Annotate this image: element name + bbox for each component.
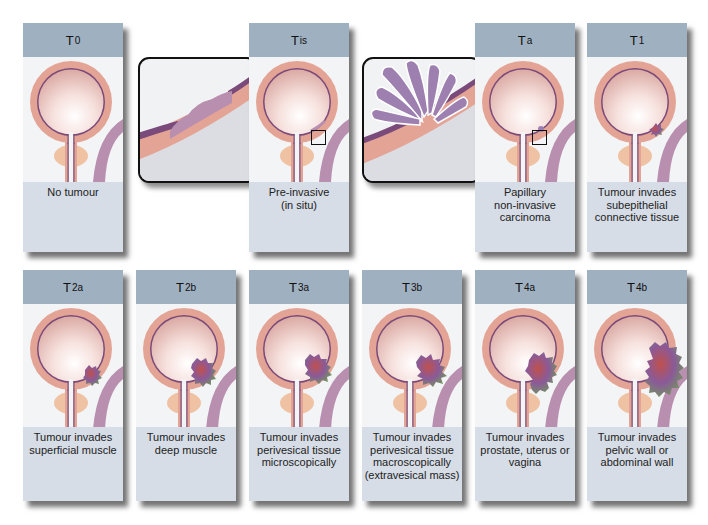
stage-header: T1 bbox=[587, 23, 687, 57]
stage-header: Ta bbox=[475, 23, 575, 57]
stage-sub: 0 bbox=[75, 35, 81, 46]
stage-caption: Tumour invades deep muscle bbox=[136, 427, 236, 501]
caption-line: pelvic wall or bbox=[587, 444, 687, 457]
stage-label: T bbox=[518, 33, 526, 48]
caption-line: connective tissue bbox=[587, 211, 687, 224]
magnify-region-box bbox=[532, 130, 547, 145]
stage-sub: 4a bbox=[524, 282, 535, 293]
stage-label: T bbox=[66, 33, 74, 48]
stage-panel-T4a: T4a Tumour invades prostate, uterus or v… bbox=[475, 270, 575, 501]
stage-label: T bbox=[515, 280, 523, 295]
stage-header: T0 bbox=[23, 23, 123, 57]
bladder-illustration bbox=[23, 57, 123, 182]
stage-caption: Tumour invades perivesical tissue macros… bbox=[362, 427, 462, 501]
stage-panel-Ta: Ta Papillary non-invasive carcinoma bbox=[475, 23, 575, 252]
stage-sub: is bbox=[300, 35, 307, 46]
stage-caption: Tumour invades superficial muscle bbox=[23, 427, 123, 501]
stage-caption: Tumour invades prostate, uterus or vagin… bbox=[475, 427, 575, 501]
caption-line: Tumour invades bbox=[249, 431, 349, 444]
stage-panel-T2b: T2b Tumour invades deep muscle bbox=[136, 270, 236, 501]
stage-sub: 2a bbox=[72, 282, 83, 293]
caption-line: Tumour invades bbox=[475, 431, 575, 444]
caption-line: macroscopically bbox=[362, 456, 462, 469]
stage-panel-T3a: T3a Tumour invades perivesical tissue mi… bbox=[249, 270, 349, 501]
stage-label: T bbox=[289, 280, 297, 295]
stage-caption: Tumour invades subepithelial connective … bbox=[587, 182, 687, 252]
stage-caption: Papillary non-invasive carcinoma bbox=[475, 182, 575, 252]
magnified-callout-ta bbox=[362, 57, 482, 183]
stage-label: T bbox=[176, 280, 184, 295]
bladder-illustration bbox=[362, 304, 462, 427]
caption-line: Tumour invades bbox=[587, 186, 687, 199]
stage-sub: 3b bbox=[411, 282, 422, 293]
caption-line: Pre-invasive bbox=[249, 186, 349, 199]
stage-sub: a bbox=[527, 35, 533, 46]
caption-line: perivesical tissue bbox=[249, 444, 349, 457]
caption-line: superficial muscle bbox=[23, 444, 123, 457]
caption-line: carcinoma bbox=[475, 211, 575, 224]
stage-header: Tis bbox=[249, 23, 349, 57]
caption-line: Tumour invades bbox=[23, 431, 123, 444]
stage-panel-T4b: T4b Tumour invades pelvic wall or abdomi… bbox=[587, 270, 687, 501]
caption-line: microscopically bbox=[249, 456, 349, 469]
bladder-illustration bbox=[475, 304, 575, 427]
stage-sub: 3a bbox=[298, 282, 309, 293]
stage-panel-Tis: Tis Pre-invasive (in situ) bbox=[249, 23, 349, 252]
bladder-illustration bbox=[587, 57, 687, 182]
stage-label: T bbox=[627, 280, 635, 295]
cis-magnified-icon bbox=[140, 59, 256, 181]
caption-line: Tumour invades bbox=[136, 431, 236, 444]
caption-line: subepithelial bbox=[587, 199, 687, 212]
caption-line: deep muscle bbox=[136, 444, 236, 457]
stage-header: T2a bbox=[23, 270, 123, 304]
stage-header: T3b bbox=[362, 270, 462, 304]
caption-line: (in situ) bbox=[249, 199, 349, 212]
caption-line: non-invasive bbox=[475, 199, 575, 212]
caption-line: vagina bbox=[475, 456, 575, 469]
stage-caption: No tumour bbox=[23, 182, 123, 252]
bladder-illustration bbox=[249, 304, 349, 427]
caption-line: abdominal wall bbox=[587, 456, 687, 469]
bladder-illustration bbox=[249, 57, 349, 182]
papillary-magnified-icon bbox=[364, 59, 480, 181]
stage-label: T bbox=[630, 33, 638, 48]
bladder-illustration bbox=[475, 57, 575, 182]
bladder-illustration bbox=[587, 304, 687, 427]
magnify-region-box bbox=[311, 130, 326, 145]
stage-header: T4b bbox=[587, 270, 687, 304]
caption-line: prostate, uterus or bbox=[475, 444, 575, 457]
magnified-callout-tis bbox=[138, 57, 258, 183]
caption-line: Tumour invades bbox=[362, 431, 462, 444]
stage-header: T3a bbox=[249, 270, 349, 304]
stage-sub: 1 bbox=[639, 35, 645, 46]
bladder-illustration bbox=[136, 304, 236, 427]
caption-line: perivesical tissue bbox=[362, 444, 462, 457]
stage-label: T bbox=[291, 33, 299, 48]
stage-caption: Pre-invasive (in situ) bbox=[249, 182, 349, 252]
stage-label: T bbox=[63, 280, 71, 295]
stage-header: T2b bbox=[136, 270, 236, 304]
stage-label: T bbox=[402, 280, 410, 295]
stage-panel-T1: T1 Tumour invades subepithelial connecti… bbox=[587, 23, 687, 252]
stage-sub: 4b bbox=[636, 282, 647, 293]
stage-panel-T2a: T2a Tumour invades superficial muscle bbox=[23, 270, 123, 501]
caption-line: Tumour invades bbox=[587, 431, 687, 444]
stage-panel-T3b: T3b Tumour invades perivesical tissue ma… bbox=[362, 270, 462, 501]
stage-sub: 2b bbox=[185, 282, 196, 293]
caption-line: No tumour bbox=[23, 186, 123, 199]
stage-header: T4a bbox=[475, 270, 575, 304]
caption-line: (extravesical mass) bbox=[362, 469, 462, 482]
stage-panel-T0: T0 No tumour bbox=[23, 23, 123, 252]
stage-caption: Tumour invades perivesical tissue micros… bbox=[249, 427, 349, 501]
bladder-illustration bbox=[23, 304, 123, 427]
stage-caption: Tumour invades pelvic wall or abdominal … bbox=[587, 427, 687, 501]
caption-line: Papillary bbox=[475, 186, 575, 199]
